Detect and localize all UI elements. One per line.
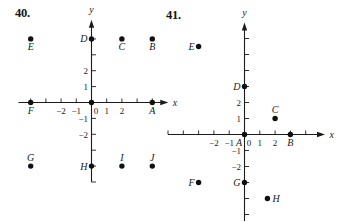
point-g — [28, 163, 33, 168]
point-label-f: F — [27, 105, 35, 116]
y-axis-label: y — [241, 7, 247, 18]
point-label-c: C — [272, 104, 279, 115]
point-label-b: B — [149, 41, 155, 52]
y-axis-arrow-icon — [242, 23, 247, 31]
x-tick-label: −2 — [209, 138, 219, 148]
x-tick-label: 0 — [247, 138, 252, 148]
point-d — [242, 84, 247, 89]
point-label-g: G — [27, 152, 34, 163]
y-tick-label: 2 — [84, 66, 89, 76]
point-label-h: H — [271, 193, 280, 204]
point-h — [265, 196, 270, 201]
y-tick-label: −2 — [78, 130, 88, 140]
point-label-e: E — [187, 41, 194, 52]
point-h — [89, 163, 94, 168]
point-a — [242, 132, 247, 137]
point-label-e: E — [27, 41, 34, 52]
figure-41-coordinate-plane: xy−2−101221−1−2ABCDEFGH — [168, 7, 334, 222]
x-axis-arrow-icon — [160, 100, 168, 105]
x-tick-label: −2 — [56, 106, 66, 116]
point-label-d: D — [79, 33, 88, 44]
y-tick-label: 2 — [237, 98, 242, 108]
point-f — [196, 180, 201, 185]
point-label-a: A — [148, 105, 156, 116]
x-axis-label: x — [328, 129, 334, 140]
point-e — [196, 44, 201, 49]
point-label-a: A — [235, 137, 243, 148]
point-label-d: D — [232, 81, 241, 92]
y-axis-label: y — [88, 4, 94, 15]
y-tick-label: 1 — [84, 82, 89, 92]
point-i — [119, 163, 124, 168]
y-tick-label: −1 — [78, 114, 88, 124]
point-label-i: I — [119, 152, 124, 163]
x-axis-label: x — [172, 97, 178, 108]
figure-40-coordinate-plane: xy−2−101221−1−2ABCDEFGHIJ — [19, 4, 178, 182]
x-tick-label: 2 — [273, 138, 278, 148]
x-axis-arrow-icon — [317, 132, 325, 137]
x-tick-label: 1 — [258, 138, 263, 148]
point-d — [89, 36, 94, 41]
point-c — [272, 116, 277, 121]
point-label-c: C — [119, 41, 126, 52]
y-tick-label: 1 — [237, 114, 242, 124]
point-g — [242, 180, 247, 185]
point-j — [150, 163, 155, 168]
y-tick-label: −2 — [231, 162, 241, 172]
y-axis-arrow-icon — [89, 20, 94, 28]
point-origin — [89, 100, 94, 105]
point-label-b: B — [287, 137, 293, 148]
coordinate-planes: xy−2−101221−1−2ABCDEFGHIJ xy−2−101221−1−… — [0, 0, 347, 221]
point-label-g: G — [233, 177, 240, 188]
x-tick-label: 1 — [104, 106, 109, 116]
x-tick-label: 0 — [94, 106, 99, 116]
point-label-j: J — [150, 152, 155, 163]
point-label-f: F — [187, 177, 195, 188]
x-tick-label: 2 — [120, 106, 125, 116]
point-label-h: H — [79, 161, 88, 172]
